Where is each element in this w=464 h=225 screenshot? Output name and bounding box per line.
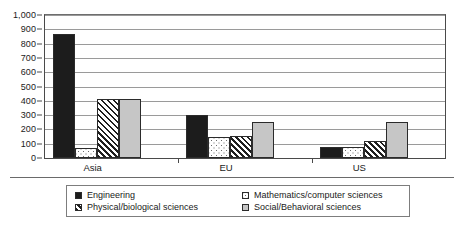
legend-label: Physical/biological sciences [87, 202, 198, 212]
bar [342, 147, 364, 158]
swatch-math-icon [242, 192, 249, 199]
y-tick-label: 1,000 [13, 11, 36, 20]
bars-layer [45, 15, 445, 158]
bar [53, 34, 75, 158]
bar-group-eu [186, 15, 274, 158]
x-tick-label: Asia [83, 162, 101, 173]
y-tick-label: 300 [21, 111, 36, 120]
y-tick-mark [37, 57, 42, 58]
y-tick-mark [37, 100, 42, 101]
y-tick-label: 400 [21, 96, 36, 105]
bar-chart: 01002003004005006007008009001,000 AsiaEU… [0, 0, 464, 225]
gridline [45, 158, 445, 159]
y-tick-mark [37, 158, 42, 159]
y-tick-mark [37, 43, 42, 44]
y-tick-label: 600 [21, 68, 36, 77]
swatch-social-icon [242, 204, 249, 211]
legend-item[interactable]: Social/Behavioral sciences [242, 202, 403, 212]
plot-area [44, 14, 446, 159]
bar [320, 147, 342, 158]
y-tick-label: 0 [31, 154, 36, 163]
y-tick-mark [37, 129, 42, 130]
y-tick-label: 700 [21, 53, 36, 62]
y-tick-label: 800 [21, 39, 36, 48]
bar [230, 136, 252, 158]
y-tick-label: 100 [21, 139, 36, 148]
bar [364, 141, 386, 158]
legend-item[interactable]: Engineering [75, 190, 236, 200]
y-tick-mark [37, 29, 42, 30]
y-tick-label: 900 [21, 25, 36, 34]
bar [75, 148, 97, 158]
y-tick-mark [37, 143, 42, 144]
bar [252, 122, 274, 158]
x-tick-label: EU [219, 162, 232, 173]
x-axis: AsiaEUUS [44, 162, 446, 176]
legend-label: Engineering [87, 190, 135, 200]
y-tick-mark [37, 72, 42, 73]
swatch-physical-icon [75, 204, 82, 211]
bar [386, 122, 408, 158]
swatch-engineering-icon [75, 192, 82, 199]
y-tick-mark [37, 86, 42, 87]
x-tick-label: US [353, 162, 366, 173]
bar-group-us [320, 15, 408, 158]
y-tick-label: 200 [21, 125, 36, 134]
y-tick-mark [37, 115, 42, 116]
y-axis: 01002003004005006007008009001,000 [0, 14, 42, 159]
x-axis-baseline [10, 177, 454, 178]
legend-label: Mathematics/computer sciences [254, 190, 383, 200]
legend-label: Social/Behavioral sciences [254, 202, 361, 212]
bar [208, 137, 230, 158]
chart-legend: EngineeringMathematics/computer sciences… [66, 185, 410, 217]
y-tick-label: 500 [21, 82, 36, 91]
bar [186, 115, 208, 158]
legend-item[interactable]: Physical/biological sciences [75, 202, 236, 212]
legend-item[interactable]: Mathematics/computer sciences [242, 190, 403, 200]
bar-group-asia [53, 15, 141, 158]
bar [119, 99, 141, 158]
bar [97, 99, 119, 158]
y-tick-mark [37, 15, 42, 16]
